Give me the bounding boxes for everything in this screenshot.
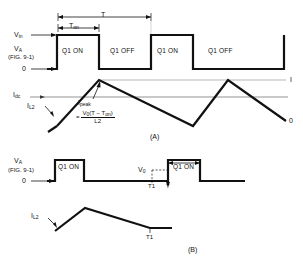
- panel-b-il2-label: IL2: [31, 212, 39, 220]
- panel-a-tag: (A): [150, 133, 159, 140]
- panel-b-state-label-2: Q1 ON: [173, 164, 194, 171]
- panel-b-va-label: VA: [14, 157, 22, 165]
- panel-b-t-label: T: [166, 183, 170, 189]
- panel-a-state-label-3: Q1 ON: [157, 48, 178, 55]
- panel-a-ipeak-formula: =V0(T − Ton)L2: [76, 110, 115, 124]
- panel-a-state-label-2: Q1 OFF: [110, 48, 135, 55]
- panel-b-current-waveform: [55, 208, 172, 231]
- panel-a-zero-label: 0: [22, 65, 26, 72]
- panel-a-on-time-label: Ton: [69, 22, 79, 30]
- panel-a-idc-label: Idc: [13, 91, 20, 99]
- panel-a-il2-pointer: [45, 106, 54, 117]
- panel-b-figure-reference: (FIG. 9-1): [8, 167, 34, 173]
- panel-a-va-label: VA: [14, 45, 22, 53]
- panel-b-il2-pointer: [48, 218, 57, 228]
- panel-a-ipeak-label: Ipeak: [78, 99, 91, 107]
- panel-b-vo-label: V0: [138, 166, 145, 174]
- panel-a-right-zero-label: 0: [289, 117, 293, 124]
- figure-container: T Ton Vin VA (FIG. 9-1) 0 Q1 ON Q1 OFF Q…: [0, 0, 303, 267]
- panel-a-state-label-1: Q1 ON: [62, 48, 83, 55]
- panel-b-t1-label: T1: [148, 183, 155, 189]
- panel-b-tag: (B): [188, 246, 197, 253]
- panel-b-current-t1-label: T1: [146, 234, 153, 240]
- panel-b-state-label-1: Q1 ON: [58, 164, 79, 171]
- panel-a-il2-label: IL2: [27, 102, 35, 110]
- panel-b-axis-pointer: [31, 179, 55, 183]
- panel-a-vin-label: Vin: [14, 31, 23, 39]
- panel-a-right-i-label: I: [290, 76, 292, 83]
- panel-a-period-label: T: [101, 11, 105, 18]
- panel-a-state-label-4: Q1 OFF: [208, 48, 233, 55]
- panel-a-figure-reference: (FIG. 9-1): [8, 54, 34, 60]
- panel-a-axis-pointers: [31, 33, 57, 71]
- panel-b-zero-label: 0: [22, 177, 26, 184]
